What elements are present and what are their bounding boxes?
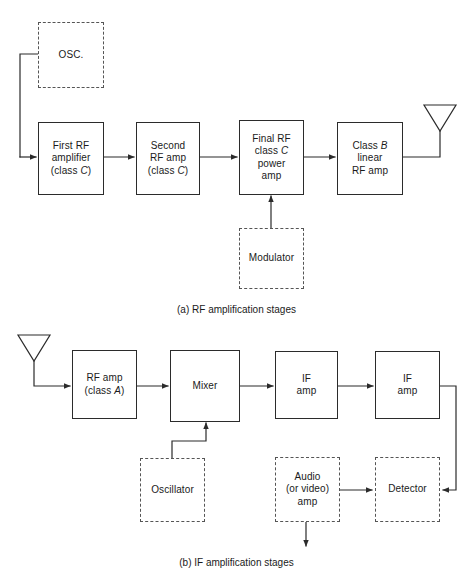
wire-osc-to-first-rf xyxy=(20,54,38,157)
second-rf-line-3-pre: (class xyxy=(148,165,178,176)
rf-amp-line-1: RF amp xyxy=(86,372,122,383)
block-oscillator-receive[interactable]: Oscillator xyxy=(140,458,205,522)
block-if-amp-1[interactable]: IF amp xyxy=(275,351,338,419)
block-mixer-label: Mixer xyxy=(191,380,220,393)
first-rf-line-2: amplifier xyxy=(52,152,91,163)
block-second-rf-amp-label: Second RF amp (class C) xyxy=(146,140,190,178)
caption-panel-a: (a) RF amplification stages xyxy=(0,303,473,316)
block-rf-amp-class-a[interactable]: RF amp (class A) xyxy=(72,350,137,419)
final-rf-line-2-pre: class xyxy=(255,145,281,156)
audio-amp-line-2: (or video) xyxy=(286,483,329,494)
block-second-rf-amp[interactable]: Second RF amp (class C) xyxy=(136,122,200,195)
block-if-amp-1-label: IF amp xyxy=(295,373,319,398)
block-class-b-linear-rf-amp-label: Class B linear RF amp xyxy=(350,140,390,178)
first-rf-line-3-class: C xyxy=(80,165,87,176)
block-audio-or-video-amp-label: Audio (or video) amp xyxy=(284,471,331,509)
if-amp-2-line-1: IF xyxy=(403,373,412,384)
block-audio-or-video-amp[interactable]: Audio (or video) amp xyxy=(275,457,340,522)
second-rf-line-1: Second xyxy=(151,140,186,151)
if-amp-1-line-1: IF xyxy=(302,373,311,384)
class-b-line-1-class: B xyxy=(381,140,388,151)
second-rf-line-3-class: C xyxy=(177,165,184,176)
block-first-rf-amplifier-label: First RF amplifier (class C) xyxy=(49,140,93,178)
wire-antenna-to-rf-amp xyxy=(34,361,70,386)
wire-if-amp-2-to-detector xyxy=(440,386,456,490)
wire-oscillator-to-mixer xyxy=(172,423,206,458)
wire-class-b-to-antenna xyxy=(403,131,440,157)
block-first-rf-amplifier[interactable]: First RF amplifier (class C) xyxy=(38,122,104,195)
if-amp-1-line-2: amp xyxy=(297,385,317,396)
block-mixer[interactable]: Mixer xyxy=(170,350,240,422)
transmit-antenna-triangle xyxy=(424,105,456,131)
first-rf-line-3-post: ) xyxy=(88,165,91,176)
block-detector[interactable]: Detector xyxy=(375,457,440,522)
final-rf-line-2-class: C xyxy=(281,145,288,156)
block-oscillator-transmit[interactable]: OSC. xyxy=(38,22,104,88)
rf-amp-line-2-pre: (class xyxy=(85,385,115,396)
block-if-amp-2-label: IF amp xyxy=(396,373,420,398)
first-rf-line-3-pre: (class xyxy=(51,165,81,176)
block-modulator[interactable]: Modulator xyxy=(239,228,304,289)
class-b-line-2: linear xyxy=(357,152,382,163)
audio-amp-line-1: Audio xyxy=(294,471,320,482)
block-oscillator-transmit-label: OSC. xyxy=(57,49,86,62)
rf-amp-line-2-class: A xyxy=(114,385,121,396)
rf-amp-line-2-post: ) xyxy=(121,385,124,396)
class-b-line-3: RF amp xyxy=(352,165,388,176)
class-b-line-1-pre: Class xyxy=(352,140,380,151)
block-detector-label: Detector xyxy=(386,483,429,496)
block-modulator-label: Modulator xyxy=(247,252,296,265)
block-final-rf-power-amp[interactable]: Final RF class C power amp xyxy=(239,120,304,195)
second-rf-line-3-post: ) xyxy=(185,165,188,176)
final-rf-line-3: power xyxy=(258,158,286,169)
receive-antenna-triangle xyxy=(18,335,50,361)
block-final-rf-power-amp-label: Final RF class C power amp xyxy=(250,133,293,183)
caption-panel-b: (b) IF amplification stages xyxy=(0,556,473,569)
block-oscillator-receive-label: Oscillator xyxy=(149,484,196,497)
second-rf-line-2: RF amp xyxy=(150,152,186,163)
audio-amp-line-3: amp xyxy=(298,496,318,507)
block-rf-amp-class-a-label: RF amp (class A) xyxy=(83,372,127,397)
block-class-b-linear-rf-amp[interactable]: Class B linear RF amp xyxy=(337,122,403,195)
figure-block-diagram: OSC. First RF amplifier (class C) Second… xyxy=(0,0,473,578)
first-rf-line-1: First RF xyxy=(53,140,89,151)
final-rf-line-1: Final RF xyxy=(252,133,291,144)
block-if-amp-2[interactable]: IF amp xyxy=(375,351,440,419)
final-rf-line-4: amp xyxy=(262,170,282,181)
if-amp-2-line-2: amp xyxy=(398,385,418,396)
